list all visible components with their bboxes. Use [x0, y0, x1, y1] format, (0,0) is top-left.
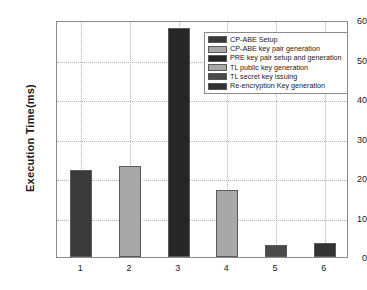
legend-label: PRE key pair setup and generation [230, 54, 341, 62]
x-tick-label: 5 [260, 263, 290, 273]
legend-swatch-icon [208, 83, 227, 90]
gridline-horizontal [57, 180, 347, 181]
legend-swatch-icon [208, 55, 227, 62]
gridline-horizontal [57, 101, 347, 102]
x-tick-label: 2 [114, 263, 144, 273]
legend-item: TL public key generation [207, 63, 345, 72]
legend-label: TL public key generation [230, 64, 308, 72]
y-axis-title: Execution Time(ms) [24, 53, 36, 223]
bar-2 [119, 166, 141, 257]
x-tick-label: 3 [163, 263, 193, 273]
legend-label: TL secret key issuing [230, 73, 297, 81]
legend-label: CP-ABE key pair generation [230, 45, 320, 53]
bar-3 [168, 28, 190, 257]
bar-6 [314, 243, 336, 257]
legend-swatch-icon [208, 64, 227, 71]
legend-label: CP-ABE Setup [230, 36, 278, 44]
chart-figure: Execution Time(ms) 0102030405060 123456 … [0, 0, 367, 290]
x-tick-label: 6 [309, 263, 339, 273]
bar-1 [70, 170, 92, 257]
bar-5 [265, 245, 287, 257]
legend-item: Re-encryption Key generation [207, 82, 345, 91]
legend-swatch-icon [208, 73, 227, 80]
chart-legend: CP-ABE SetupCP-ABE key pair generationPR… [204, 32, 348, 94]
x-tick-label: 1 [65, 263, 95, 273]
legend-swatch-icon [208, 36, 227, 43]
legend-item: TL secret key issuing [207, 72, 345, 81]
legend-item: PRE key pair setup and generation [207, 54, 345, 63]
legend-item: CP-ABE key pair generation [207, 45, 345, 54]
legend-swatch-icon [208, 46, 227, 53]
gridline-horizontal [57, 141, 347, 142]
bar-4 [216, 190, 238, 257]
x-tick-label: 4 [211, 263, 241, 273]
legend-label: Re-encryption Key generation [230, 82, 325, 90]
legend-item: CP-ABE Setup [207, 35, 345, 44]
gridline-horizontal [57, 220, 347, 221]
